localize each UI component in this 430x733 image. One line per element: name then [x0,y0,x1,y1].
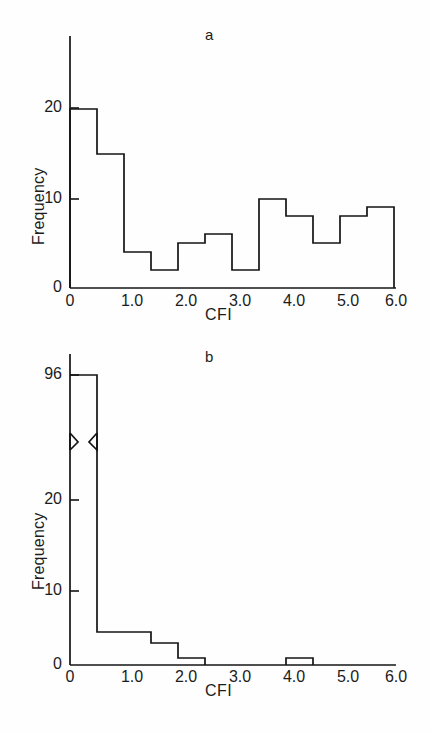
figure-container: a Frequency CFI 0 10 20 0 1.0 2.0 3.0 4.… [0,0,430,733]
panel-a: a Frequency CFI 0 10 20 0 1.0 2.0 3.0 4.… [0,0,430,340]
panel-b-histogram-bar-4 [286,658,313,665]
panel-b-y-axis-break-zigzag [70,433,78,450]
panel-a-histogram-steps [70,109,394,288]
panel-b-plot [0,340,430,733]
panel-a-plot [0,0,430,340]
panel-b-histogram-steps-lower [97,433,205,665]
panel-b: b Frequency CFI 0 10 20 96 0 1.0 2.0 3.0… [0,340,430,733]
